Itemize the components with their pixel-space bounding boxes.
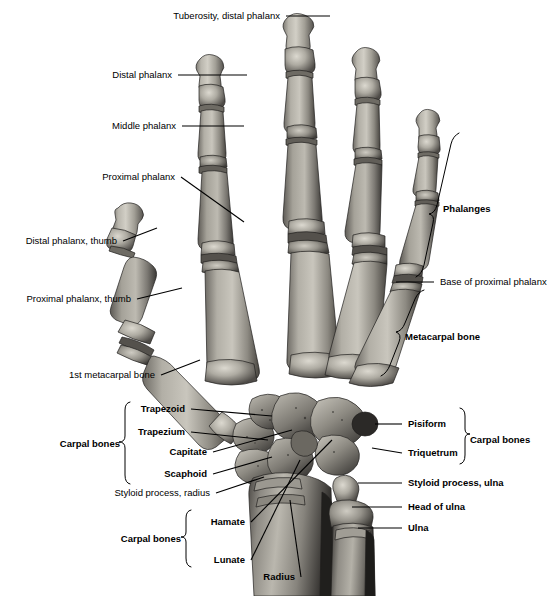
label-carpal-bones-lower: Carpal bones: [121, 533, 181, 544]
label-proximal-phalanx: Proximal phalanx: [102, 171, 175, 182]
label-distal-phalanx: Distal phalanx: [112, 69, 172, 80]
label-base-of-proximal-phalanx: Base of proximal phalanx: [440, 276, 547, 287]
label-scaphoid: Scaphoid: [164, 468, 207, 479]
label-styloid-process-ulna: Styloid process, ulna: [408, 477, 504, 488]
leader-proximal-phalanx: [181, 177, 244, 222]
label-hamate: Hamate: [211, 516, 245, 527]
label-ulna: Ulna: [408, 522, 429, 533]
label-proximal-phalanx-thumb: Proximal phalanx, thumb: [26, 293, 131, 304]
leader-triquetrum: [372, 448, 402, 453]
label-phalanges: Phalanges: [443, 203, 491, 214]
label-styloid-process-radius: Styloid process, radius: [114, 487, 210, 498]
label-metacarpal-bone: Metacarpal bone: [405, 331, 480, 342]
leader-proximal-phalanx-thumb: [137, 288, 182, 299]
label-radius: Radius: [263, 571, 295, 582]
leader-styloid-process-radius: [216, 477, 264, 493]
leader-capitate: [213, 430, 292, 452]
hand-skeleton-figure: Tuberosity, distal phalanx Distal phalan…: [0, 0, 547, 596]
label-head-of-ulna: Head of ulna: [408, 501, 465, 512]
label-tuberosity-distal-phalanx: Tuberosity, distal phalanx: [173, 10, 280, 21]
label-trapezium: Trapezium: [138, 426, 185, 437]
label-middle-phalanx: Middle phalanx: [112, 120, 176, 131]
label-trapezoid: Trapezoid: [141, 403, 185, 414]
label-carpal-bones-right: Carpal bones: [470, 434, 530, 445]
label-distal-phalanx-thumb: Distal phalanx, thumb: [26, 235, 117, 246]
brace-carpal-bones-lower: [181, 510, 191, 567]
label-first-metacarpal-bone: 1st metacarpal bone: [69, 369, 155, 380]
leader-trapezium: [191, 432, 268, 440]
leader-radius: [290, 500, 301, 577]
label-lunate: Lunate: [214, 554, 245, 565]
leader-first-metacarpal-bone: [161, 360, 200, 375]
leader-lunate: [251, 460, 300, 560]
label-carpal-bones-upper: Carpal bones: [60, 438, 120, 449]
label-triquetrum: Triquetrum: [408, 447, 458, 458]
leader-distal-phalanx-thumb: [123, 228, 157, 241]
leader-trapezoid: [191, 409, 272, 416]
label-pisiform: Pisiform: [408, 418, 446, 429]
label-capitate: Capitate: [170, 446, 207, 457]
brace-carpal-bones-upper: [119, 402, 130, 484]
leader-scaphoid: [213, 457, 272, 474]
brace-carpal-bones-right: [460, 408, 470, 464]
